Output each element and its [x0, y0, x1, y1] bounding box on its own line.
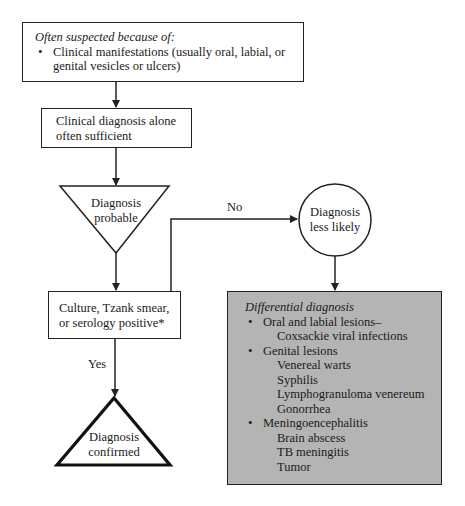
less-likely-line-1: Diagnosis	[295, 205, 375, 220]
test-line-1: Culture, Tzank smear,	[59, 301, 180, 316]
differential-group-meningo: Meningoencephalitis	[245, 416, 435, 431]
differential-item: Coxsackie viral infections	[245, 329, 435, 344]
diagnosis-probable-label: Diagnosis probable	[76, 196, 156, 225]
suspicion-bullet-text: Clinical manifestations (usually oral, l…	[53, 45, 285, 59]
suspicion-bullet-continuation: genital vesicles or ulcers)	[35, 59, 293, 74]
test-line-2: or serology positive*	[59, 316, 180, 331]
differential-item: Venereal warts	[245, 358, 435, 373]
suspicion-bullet: Clinical manifestations (usually oral, l…	[35, 45, 293, 60]
differential-item: Lymphogranuloma venereum	[245, 387, 435, 402]
suspicion-heading: Often suspected because of:	[35, 30, 293, 45]
diagnosis-less-likely-label: Diagnosis less likely	[295, 205, 375, 234]
confirmed-line-1: Diagnosis	[74, 430, 154, 445]
confirmed-line-2: confirmed	[74, 445, 154, 460]
differential-item: Brain abscess	[245, 431, 435, 446]
clinical-line-1: Clinical diagnosis alone	[56, 114, 191, 129]
no-branch-label: No	[227, 200, 242, 215]
probable-line-1: Diagnosis	[76, 196, 156, 211]
clinical-diagnosis-box: Clinical diagnosis alone often sufficien…	[41, 108, 192, 148]
group-label: Genital lesions	[263, 344, 338, 358]
group-label: Oral and labial lesions–	[263, 315, 381, 329]
probable-line-2: probable	[76, 211, 156, 226]
differential-diagnosis-box: Differential diagnosis Oral and labial l…	[227, 291, 442, 485]
diagnosis-confirmed-label: Diagnosis confirmed	[74, 430, 154, 459]
differential-item: Gonorrhea	[245, 402, 435, 417]
test-positive-box: Culture, Tzank smear, or serology positi…	[48, 291, 181, 339]
yes-branch-label: Yes	[88, 357, 106, 372]
differential-group-genital: Genital lesions	[245, 344, 435, 359]
differential-heading: Differential diagnosis	[245, 300, 435, 315]
differential-item: TB meningitis	[245, 445, 435, 460]
differential-item: Tumor	[245, 460, 435, 475]
suspicion-box: Often suspected because of: Clinical man…	[22, 22, 304, 82]
differential-group-oral: Oral and labial lesions–	[245, 315, 435, 330]
less-likely-line-2: less likely	[295, 220, 375, 235]
differential-item: Syphilis	[245, 373, 435, 388]
no-branch-connector	[171, 219, 297, 291]
group-label: Meningoencephalitis	[263, 416, 368, 430]
clinical-line-2: often sufficient	[56, 129, 191, 144]
